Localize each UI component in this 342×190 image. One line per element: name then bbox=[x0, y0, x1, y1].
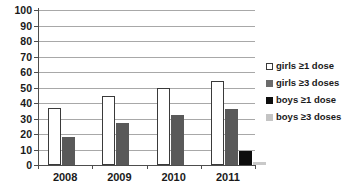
bar-group bbox=[92, 10, 146, 165]
y-axis-tick-label: 20 bbox=[2, 129, 32, 140]
legend-swatch-icon bbox=[266, 114, 273, 121]
legend-label: girls ≥3 doses bbox=[276, 78, 339, 88]
x-axis-tick-label: 2010 bbox=[147, 172, 201, 183]
y-axis-tick-label: 80 bbox=[2, 36, 32, 47]
legend-swatch-icon bbox=[266, 80, 273, 87]
y-axis-tick-label: 50 bbox=[2, 83, 32, 94]
bar-chart: 1009080706050403020100 2008200920102011 … bbox=[0, 0, 342, 190]
legend-label: boys ≥3 doses bbox=[276, 112, 341, 122]
chart-legend: girls ≥1 dosegirls ≥3 dosesboys ≥1 doseb… bbox=[266, 58, 342, 126]
y-axis-tick-label: 30 bbox=[2, 114, 32, 125]
bar bbox=[48, 108, 61, 165]
y-axis-tick-label: 0 bbox=[2, 160, 32, 171]
bar-group bbox=[201, 10, 255, 165]
bar bbox=[211, 81, 224, 165]
y-axis-tick-label: 70 bbox=[2, 52, 32, 63]
y-axis-tick-label: 100 bbox=[2, 5, 32, 16]
bar bbox=[239, 151, 252, 165]
y-axis-tick-label: 40 bbox=[2, 98, 32, 109]
y-axis-tick-label: 90 bbox=[2, 21, 32, 32]
bar-groups bbox=[38, 10, 255, 165]
legend-item[interactable]: boys ≥3 doses bbox=[266, 109, 342, 125]
bar bbox=[116, 123, 129, 165]
bar bbox=[171, 115, 184, 165]
x-axis-tick-label: 2011 bbox=[201, 172, 255, 183]
legend-label: girls ≥1 dose bbox=[276, 61, 334, 71]
legend-item[interactable]: girls ≥3 doses bbox=[266, 75, 342, 91]
bar bbox=[253, 162, 266, 165]
bar bbox=[225, 109, 238, 165]
y-axis-tick-label: 60 bbox=[2, 67, 32, 78]
bar-group bbox=[147, 10, 201, 165]
legend-label: boys ≥1 dose bbox=[276, 95, 336, 105]
bar bbox=[102, 96, 115, 165]
bar-group bbox=[38, 10, 92, 165]
legend-swatch-icon bbox=[266, 63, 273, 70]
legend-swatch-icon bbox=[266, 97, 273, 104]
x-axis-line bbox=[38, 165, 256, 166]
y-axis-tick-label: 10 bbox=[2, 145, 32, 156]
bar bbox=[157, 88, 170, 165]
legend-item[interactable]: boys ≥1 dose bbox=[266, 92, 342, 108]
x-axis-tick-label: 2009 bbox=[92, 172, 146, 183]
x-axis-tick-label: 2008 bbox=[38, 172, 92, 183]
legend-item[interactable]: girls ≥1 dose bbox=[266, 58, 342, 74]
bar bbox=[62, 137, 75, 165]
